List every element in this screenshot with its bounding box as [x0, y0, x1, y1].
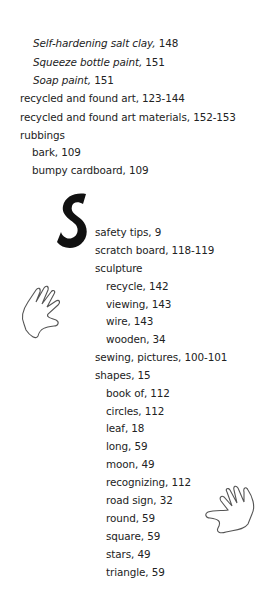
index-entry: square, 59: [106, 529, 160, 543]
index-entry: book of, 112: [106, 386, 170, 400]
index-entry: safety tips, 9: [95, 225, 161, 239]
index-entry: bumpy cardboard, 109: [32, 163, 149, 177]
index-entry: scratch board, 118-119: [95, 243, 214, 257]
section-letter-s: [56, 192, 90, 250]
index-entry-pages: 148: [155, 37, 178, 49]
index-entry: round, 59: [106, 511, 155, 525]
index-entry: recognizing, 112: [106, 475, 191, 489]
index-entry: wire, 143: [106, 314, 153, 328]
index-entry: recycled and found art materials, 152-15…: [20, 110, 236, 124]
index-entry: Soap paint, 151: [33, 73, 114, 87]
index-entry: circles, 112: [106, 404, 164, 418]
index-entry: rubbings: [20, 128, 65, 142]
index-entry: wooden, 34: [106, 332, 166, 346]
index-entry: moon, 49: [106, 457, 154, 471]
hand-outline-icon: [16, 284, 76, 340]
index-entry: long, 59: [106, 439, 147, 453]
index-entry: sculpture: [95, 261, 142, 275]
index-entry: recycle, 142: [106, 279, 169, 293]
index-entry: recycled and found art, 123-144: [20, 91, 185, 105]
index-entry: sewing, pictures, 100-101: [95, 350, 227, 364]
index-entry: leaf, 18: [106, 421, 144, 435]
index-entry: bark, 109: [32, 145, 81, 159]
index-entry: stars, 49: [106, 547, 150, 561]
index-entry-title: Squeeze bottle paint,: [33, 56, 142, 68]
index-entry: triangle, 59: [106, 565, 165, 579]
index-entry-title: Soap paint,: [33, 74, 91, 86]
hand-outline-icon: [200, 484, 258, 536]
index-entry-pages: 151: [91, 74, 114, 86]
index-entry: Self-hardening salt clay, 148: [33, 36, 178, 50]
index-entry: road sign, 32: [106, 493, 173, 507]
index-entry: shapes, 15: [95, 368, 151, 382]
index-entry-pages: 151: [142, 56, 165, 68]
index-entry-title: Self-hardening salt clay,: [33, 37, 155, 49]
index-entry: Squeeze bottle paint, 151: [33, 55, 165, 69]
index-entry: viewing, 143: [106, 297, 171, 311]
